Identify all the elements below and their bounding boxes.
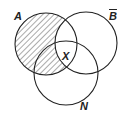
venn-diagram: A B X N: [0, 0, 125, 115]
label-x: X: [62, 51, 69, 62]
label-b-bar: B: [109, 11, 117, 22]
label-n: N: [80, 101, 88, 112]
label-a: A: [14, 11, 22, 22]
